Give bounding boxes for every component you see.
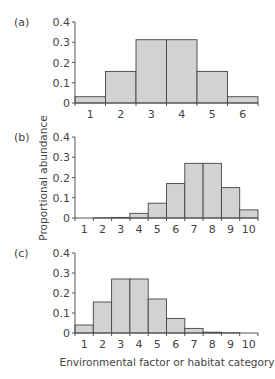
- bar: [197, 71, 228, 103]
- bar: [228, 97, 259, 103]
- histogram-figure: Proportional abundance Environmental fac…: [0, 0, 275, 379]
- bar: [112, 279, 130, 333]
- x-tick-label: 5: [154, 338, 161, 351]
- x-tick-label: 10: [242, 338, 256, 351]
- y-tick-label: 0.1: [53, 77, 71, 90]
- bar: [221, 188, 239, 218]
- x-tick-label: 9: [227, 338, 234, 351]
- x-tick-label: 2: [99, 223, 106, 236]
- x-tick-label: 3: [148, 108, 155, 121]
- y-tick-label: 0.4: [53, 16, 71, 29]
- x-tick-label: 4: [178, 108, 185, 121]
- x-tick-label: 1: [81, 223, 88, 236]
- x-tick-label: 9: [227, 223, 234, 236]
- y-tick-label: 0: [63, 212, 70, 225]
- x-tick-label: 7: [190, 338, 197, 351]
- bar: [106, 71, 137, 103]
- panel-label: (c): [14, 247, 29, 260]
- y-tick-label: 0.4: [53, 247, 71, 260]
- y-tick-label: 0: [63, 97, 70, 110]
- bar: [148, 203, 166, 218]
- bar: [130, 213, 148, 218]
- x-tick-label: 8: [209, 338, 216, 351]
- x-tick-label: 5: [209, 108, 216, 121]
- x-tick-label: 6: [172, 223, 179, 236]
- bar: [167, 184, 185, 218]
- y-axis-title: Proportional abundance: [37, 115, 49, 240]
- y-tick-label: 0.2: [53, 172, 71, 185]
- y-tick-label: 0.3: [53, 267, 71, 280]
- y-tick-label: 0.4: [53, 131, 71, 144]
- bar: [240, 210, 258, 218]
- x-tick-label: 6: [172, 338, 179, 351]
- x-tick-label: 5: [154, 223, 161, 236]
- bar: [167, 318, 185, 333]
- bar: [75, 325, 93, 333]
- bar: [148, 299, 166, 333]
- bar: [130, 279, 148, 333]
- panel-a: (a)00.10.20.30.4123456: [14, 16, 258, 121]
- y-tick-label: 0.3: [53, 36, 71, 49]
- bar: [75, 97, 106, 103]
- x-tick-label: 10: [242, 223, 256, 236]
- panel-b: (b)00.10.20.30.412345678910: [14, 131, 258, 236]
- x-axis-title: Environmental factor or habitat category: [60, 356, 275, 368]
- x-tick-label: 8: [209, 223, 216, 236]
- y-tick-label: 0: [63, 327, 70, 340]
- y-tick-label: 0.1: [53, 307, 71, 320]
- bar: [93, 302, 111, 333]
- x-tick-label: 4: [136, 223, 143, 236]
- bar: [167, 40, 198, 103]
- x-tick-label: 2: [99, 338, 106, 351]
- x-tick-label: 7: [190, 223, 197, 236]
- x-tick-label: 2: [117, 108, 124, 121]
- x-tick-label: 1: [81, 338, 88, 351]
- x-tick-label: 4: [136, 338, 143, 351]
- x-tick-label: 1: [87, 108, 94, 121]
- x-tick-label: 3: [117, 338, 124, 351]
- y-tick-label: 0.2: [53, 287, 71, 300]
- bar: [136, 40, 167, 103]
- panel-c: (c)00.10.20.30.412345678910: [14, 247, 258, 351]
- y-tick-label: 0.2: [53, 57, 71, 70]
- panel-label: (a): [14, 16, 29, 29]
- panel-label: (b): [14, 131, 30, 144]
- y-tick-label: 0.1: [53, 192, 71, 205]
- bar: [185, 328, 203, 333]
- x-tick-label: 6: [239, 108, 246, 121]
- bar: [185, 163, 203, 218]
- y-tick-label: 0.3: [53, 151, 71, 164]
- bar: [203, 163, 221, 218]
- x-tick-label: 3: [117, 223, 124, 236]
